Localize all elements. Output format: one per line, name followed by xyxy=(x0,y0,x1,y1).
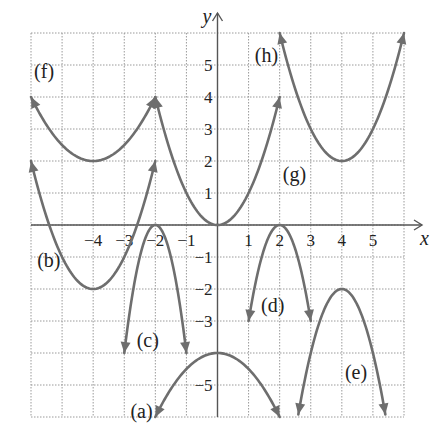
curve-arrow-icon xyxy=(379,403,389,415)
x-tick-label: 1 xyxy=(244,231,253,250)
parabola-chart: xy −4−3−2−11234554321−1−2−3−5 (a)(b)(c)(… xyxy=(0,0,445,438)
curve-label: (a) xyxy=(130,400,152,423)
y-tick-label: 3 xyxy=(204,120,213,139)
x-tick-label: −1 xyxy=(177,231,195,250)
y-tick-label: 4 xyxy=(204,88,213,107)
x-tick-label: 3 xyxy=(307,231,316,250)
x-tick-label: −2 xyxy=(146,231,164,250)
curve-arrow-icon xyxy=(295,403,305,415)
y-axis-label: y xyxy=(201,5,212,28)
x-tick-label: 2 xyxy=(275,231,284,250)
y-tick-label: −5 xyxy=(194,376,212,395)
y-tick-label: −2 xyxy=(194,280,212,299)
curve-label: (c) xyxy=(137,329,159,352)
curve-arrow-icon xyxy=(304,309,314,321)
x-axis-label: x xyxy=(419,227,429,249)
curve-label: (h) xyxy=(255,44,278,67)
curve-label: (e) xyxy=(345,361,367,384)
x-tick-label: 4 xyxy=(338,231,347,250)
x-tick-label: −4 xyxy=(84,231,103,250)
curve-label: (g) xyxy=(283,163,306,186)
y-tick-label: −3 xyxy=(194,312,212,331)
curve-label: (f) xyxy=(34,60,54,83)
y-tick-label: −1 xyxy=(194,248,212,267)
y-tick-label: 5 xyxy=(204,56,213,75)
curve-arrow-icon xyxy=(245,309,255,321)
curve-label: (d) xyxy=(261,294,284,317)
curve-label: (b) xyxy=(37,249,60,272)
y-tick-label: 2 xyxy=(204,152,213,171)
x-tick-label: 5 xyxy=(369,231,378,250)
y-tick-label: 1 xyxy=(204,184,213,203)
